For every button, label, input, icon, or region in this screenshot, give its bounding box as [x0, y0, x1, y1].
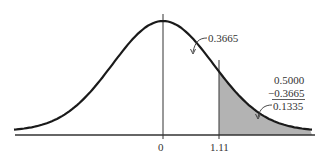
- calc-result: 0.1335: [273, 100, 303, 112]
- area-label-center: 0.3665: [208, 32, 238, 44]
- calc-top: 0.5000: [274, 74, 304, 86]
- calc-subtrahend: −0.3665: [268, 87, 304, 99]
- tick-label-zero: 0: [158, 141, 164, 153]
- tick-label-z: 1.11: [210, 141, 229, 153]
